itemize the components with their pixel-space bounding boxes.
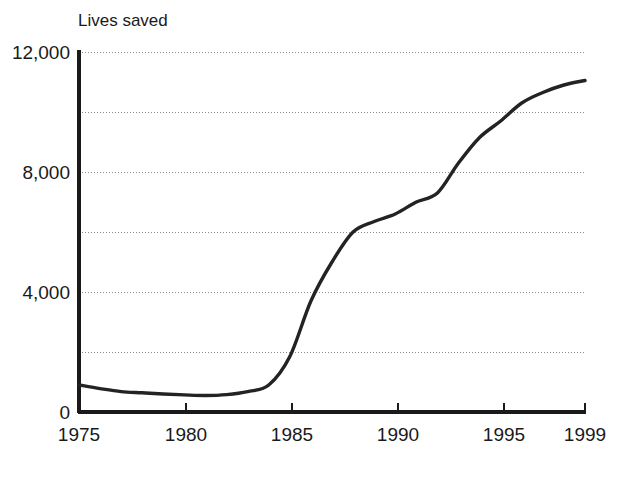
data-series-lives-saved <box>79 81 585 396</box>
x-tick-label-1975: 1975 <box>58 424 100 445</box>
x-tick-label-1995: 1995 <box>483 424 525 445</box>
y-tick-label-4000: 4,000 <box>22 282 70 303</box>
x-tick-label-1999: 1999 <box>564 424 606 445</box>
y-tick-label-8000: 8,000 <box>22 162 70 183</box>
x-tick-label-1980: 1980 <box>165 424 207 445</box>
gridlines <box>79 52 586 352</box>
x-tick-label-1985: 1985 <box>271 424 313 445</box>
y-tick-label-12000: 12,000 <box>12 42 70 63</box>
chart-canvas: Lives saved 12,000 8,000 4,000 0 <box>0 0 620 483</box>
line-chart-figure: Lives saved 12,000 8,000 4,000 0 <box>0 0 620 483</box>
x-tick-label-1990: 1990 <box>377 424 419 445</box>
y-axis-title: Lives saved <box>78 11 168 30</box>
y-tick-label-0: 0 <box>59 402 70 423</box>
